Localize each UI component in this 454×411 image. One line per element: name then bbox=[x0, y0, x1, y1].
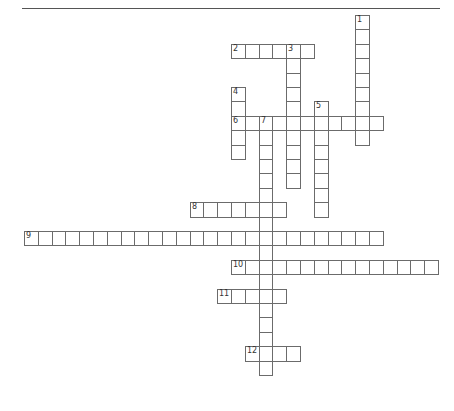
crossword-cell[interactable] bbox=[314, 130, 329, 146]
crossword-cell[interactable] bbox=[259, 245, 273, 261]
crossword-cell[interactable] bbox=[300, 44, 315, 59]
crossword-cell[interactable] bbox=[286, 58, 301, 74]
crossword-cell[interactable] bbox=[259, 188, 273, 203]
crossword-cell[interactable] bbox=[259, 159, 273, 174]
crossword-cell[interactable] bbox=[369, 116, 384, 131]
crossword-cell[interactable] bbox=[314, 173, 329, 189]
crossword-cell[interactable] bbox=[259, 44, 273, 59]
crossword-cell[interactable] bbox=[314, 231, 329, 246]
crossword-cell[interactable] bbox=[369, 231, 384, 246]
crossword-cell[interactable] bbox=[162, 231, 177, 246]
crossword-cell[interactable] bbox=[314, 260, 329, 275]
crossword-cell[interactable] bbox=[231, 289, 246, 304]
crossword-cell[interactable] bbox=[259, 332, 273, 347]
crossword-cell[interactable] bbox=[93, 231, 108, 246]
crossword-cell[interactable] bbox=[52, 231, 66, 246]
crossword-cell[interactable] bbox=[272, 231, 287, 246]
crossword-cell[interactable] bbox=[424, 260, 439, 275]
crossword-cell[interactable] bbox=[355, 260, 370, 275]
crossword-cell[interactable] bbox=[286, 101, 301, 117]
crossword-cell[interactable] bbox=[341, 116, 356, 131]
crossword-cell[interactable]: 4 bbox=[231, 87, 246, 102]
crossword-cell[interactable] bbox=[245, 116, 260, 131]
crossword-cell[interactable] bbox=[259, 361, 273, 376]
crossword-cell[interactable] bbox=[286, 173, 301, 189]
crossword-cell[interactable] bbox=[259, 231, 273, 246]
crossword-cell[interactable] bbox=[259, 289, 273, 304]
crossword-cell[interactable] bbox=[272, 44, 287, 59]
crossword-cell[interactable] bbox=[245, 260, 260, 275]
crossword-cell[interactable] bbox=[38, 231, 53, 246]
crossword-cell[interactable] bbox=[231, 202, 246, 218]
crossword-cell[interactable] bbox=[328, 260, 342, 275]
crossword-cell[interactable] bbox=[286, 145, 301, 160]
crossword-cell[interactable] bbox=[355, 73, 370, 88]
crossword-cell[interactable] bbox=[355, 130, 370, 146]
crossword-cell[interactable] bbox=[286, 130, 301, 146]
crossword-cell[interactable] bbox=[203, 202, 218, 218]
crossword-cell[interactable]: 9 bbox=[24, 231, 39, 246]
crossword-cell[interactable] bbox=[383, 260, 398, 275]
crossword-cell[interactable] bbox=[203, 231, 218, 246]
crossword-cell[interactable] bbox=[134, 231, 149, 246]
crossword-cell[interactable]: 1 bbox=[355, 15, 370, 30]
crossword-cell[interactable] bbox=[355, 231, 370, 246]
crossword-cell[interactable] bbox=[65, 231, 80, 246]
crossword-cell[interactable] bbox=[148, 231, 163, 246]
crossword-cell[interactable] bbox=[272, 116, 287, 131]
crossword-cell[interactable] bbox=[259, 260, 273, 275]
crossword-cell[interactable] bbox=[259, 173, 273, 189]
crossword-cell[interactable] bbox=[259, 303, 273, 318]
crossword-cell[interactable] bbox=[259, 346, 273, 362]
crossword-cell[interactable] bbox=[314, 116, 329, 131]
crossword-cell[interactable]: 3 bbox=[286, 44, 301, 59]
crossword-cell[interactable] bbox=[314, 202, 329, 218]
crossword-cell[interactable] bbox=[231, 145, 246, 160]
crossword-cell[interactable] bbox=[176, 231, 191, 246]
crossword-cell[interactable] bbox=[300, 260, 315, 275]
crossword-cell[interactable] bbox=[231, 130, 246, 146]
crossword-cell[interactable]: 6 bbox=[231, 116, 246, 131]
crossword-cell[interactable] bbox=[410, 260, 425, 275]
crossword-cell[interactable] bbox=[341, 260, 356, 275]
crossword-cell[interactable] bbox=[369, 260, 384, 275]
crossword-cell[interactable] bbox=[355, 29, 370, 45]
crossword-cell[interactable] bbox=[107, 231, 122, 246]
crossword-cell[interactable] bbox=[190, 231, 204, 246]
crossword-cell[interactable] bbox=[355, 87, 370, 102]
crossword-cell[interactable] bbox=[259, 130, 273, 146]
crossword-cell[interactable] bbox=[245, 44, 260, 59]
crossword-cell[interactable] bbox=[286, 87, 301, 102]
crossword-cell[interactable] bbox=[259, 145, 273, 160]
crossword-cell[interactable] bbox=[300, 231, 315, 246]
crossword-cell[interactable] bbox=[314, 145, 329, 160]
crossword-cell[interactable] bbox=[300, 116, 315, 131]
crossword-cell[interactable] bbox=[259, 217, 273, 232]
crossword-cell[interactable]: 5 bbox=[314, 101, 329, 117]
crossword-cell[interactable] bbox=[355, 44, 370, 59]
crossword-cell[interactable]: 8 bbox=[190, 202, 204, 218]
crossword-cell[interactable] bbox=[245, 289, 260, 304]
crossword-cell[interactable] bbox=[245, 202, 260, 218]
crossword-cell[interactable] bbox=[272, 289, 287, 304]
crossword-cell[interactable] bbox=[314, 188, 329, 203]
crossword-cell[interactable] bbox=[272, 202, 287, 218]
crossword-cell[interactable] bbox=[259, 317, 273, 333]
crossword-cell[interactable] bbox=[217, 231, 232, 246]
crossword-cell[interactable] bbox=[286, 73, 301, 88]
crossword-cell[interactable] bbox=[314, 159, 329, 174]
crossword-cell[interactable] bbox=[341, 231, 356, 246]
crossword-cell[interactable] bbox=[217, 202, 232, 218]
crossword-cell[interactable] bbox=[259, 202, 273, 218]
crossword-cell[interactable] bbox=[355, 58, 370, 74]
crossword-cell[interactable] bbox=[231, 231, 246, 246]
crossword-cell[interactable] bbox=[245, 231, 260, 246]
crossword-cell[interactable] bbox=[328, 231, 342, 246]
crossword-cell[interactable] bbox=[272, 346, 287, 362]
crossword-cell[interactable]: 11 bbox=[217, 289, 232, 304]
crossword-cell[interactable]: 12 bbox=[245, 346, 260, 362]
crossword-cell[interactable] bbox=[286, 260, 301, 275]
crossword-cell[interactable] bbox=[272, 260, 287, 275]
crossword-cell[interactable] bbox=[328, 116, 342, 131]
crossword-cell[interactable] bbox=[355, 116, 370, 131]
